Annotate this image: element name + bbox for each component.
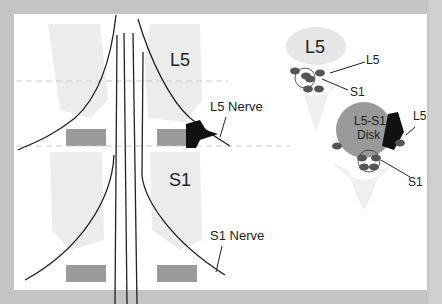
vertebra-left-s1: [50, 152, 104, 250]
label-s1-nerve: S1 Nerve: [210, 228, 264, 243]
label-axial-bottom-s1: S1: [408, 175, 423, 189]
label-disk-line2: Disk: [357, 128, 381, 142]
vertebra-right-l5: [145, 24, 202, 122]
disk-left-lower: [66, 265, 106, 282]
cauda-line: [124, 33, 127, 304]
spine-diagram: L5 S1 L5 Nerve S1 Nerve L5 L5 S1 L5-S1 D…: [0, 0, 442, 304]
vertebra-left-l5: [48, 24, 108, 118]
label-s1: S1: [169, 170, 191, 190]
arrow: [220, 117, 226, 137]
right-edge: [429, 0, 442, 304]
disk-right-lower: [157, 265, 197, 282]
cauda-line: [133, 33, 137, 304]
label-axial-bottom-l5: L5: [413, 109, 427, 123]
disk-left-upper: [66, 129, 106, 146]
arrow: [216, 246, 222, 272]
herniation: [186, 120, 218, 148]
label-axial-l5-root: L5: [366, 53, 380, 67]
label-l5-nerve: L5 Nerve: [210, 99, 263, 114]
label-l5: L5: [170, 50, 190, 70]
label-disk-line1: L5-S1: [354, 114, 386, 128]
cauda-line: [115, 35, 117, 304]
label-axial-s1-root: S1: [350, 85, 365, 99]
label-axial-l5: L5: [305, 37, 325, 57]
